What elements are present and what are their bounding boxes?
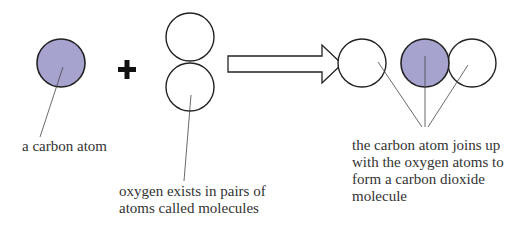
plus-icon [118,60,136,79]
oxygen-label: oxygen exists in pairs of atoms called m… [119,183,266,217]
co2-label-line1: the carbon atom joins up [352,137,504,154]
carbon-atom [37,39,85,87]
oxygen-label-line1: oxygen exists in pairs of [119,183,266,200]
co2-label-line3: form a carbon dioxide [352,171,504,188]
right-arrow-icon [228,45,342,83]
carbon-label: a carbon atom [22,138,107,155]
co2-label-line2: with the oxygen atoms to [352,154,504,171]
co2-oxygen-right [448,39,496,87]
co2-label: the carbon atom joins up with the oxygen… [352,137,504,205]
oxygen-atom-top [166,13,214,61]
co2-label-line4: molecule [352,188,504,205]
oxygen-label-line2: atoms called molecules [119,200,266,217]
